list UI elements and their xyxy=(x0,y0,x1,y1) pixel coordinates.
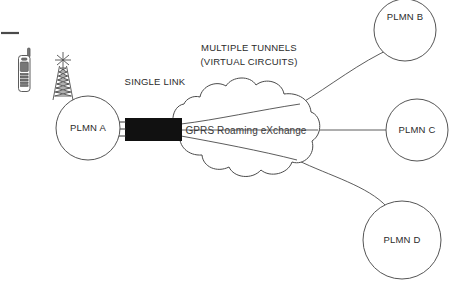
mobile-phone-icon xyxy=(19,48,31,92)
single-link-annotation: SINGLE LINK xyxy=(125,76,186,87)
single-link-bar xyxy=(125,118,182,141)
node-plmn-d-label: PLMN D xyxy=(383,234,420,245)
multiple-tunnels-annotation-line1: MULTIPLE TUNNELS xyxy=(201,42,297,53)
diagram-canvas: PLMN A PLMN B PLMN C PLMN D GPRS Roaming… xyxy=(0,0,476,292)
tunnel-to-plmn-d xyxy=(297,160,387,207)
node-plmn-a-label: PLMN A xyxy=(70,122,107,133)
multiple-tunnels-annotation-line2: (VIRTUAL CIRCUITS) xyxy=(200,56,297,67)
tunnel-to-plmn-b xyxy=(300,48,392,104)
grx-cloud-label: GPRS Roaming eXchange xyxy=(185,125,306,136)
network-diagram: PLMN A PLMN B PLMN C PLMN D GPRS Roaming… xyxy=(0,0,476,292)
node-plmn-c-label: PLMN C xyxy=(398,124,435,135)
node-plmn-b-label: PLMN B xyxy=(387,11,424,22)
cell-tower-icon xyxy=(53,52,73,100)
node-plmn-b[interactable] xyxy=(374,0,436,61)
